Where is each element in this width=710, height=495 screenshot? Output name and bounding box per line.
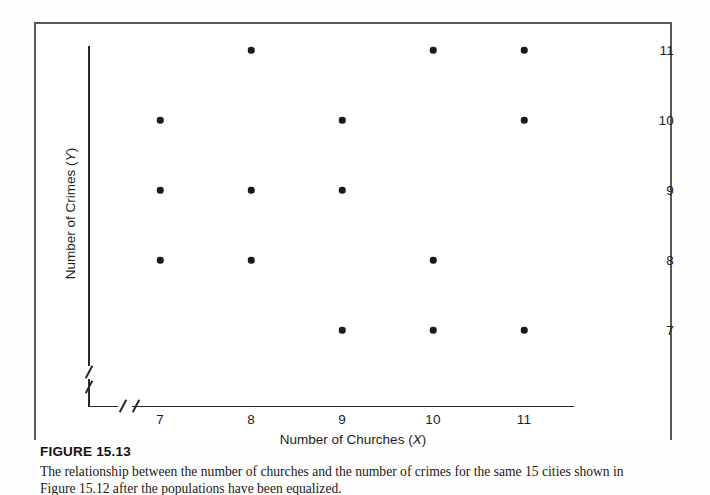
- data-point: [339, 327, 346, 334]
- x-axis-break-mark-left: [119, 399, 127, 412]
- data-point: [430, 257, 437, 264]
- data-point: [521, 327, 528, 334]
- data-point: [339, 117, 346, 124]
- y-tick-label-7: 7: [632, 323, 674, 338]
- y-tick-label-10: 10: [632, 113, 674, 128]
- y-tick-label-8: 8: [632, 253, 674, 268]
- y-tick-label-11: 11: [632, 43, 674, 58]
- x-tick-label-7: 7: [140, 412, 180, 427]
- figure-caption-block: FIGURE 15.13 The relationship between th…: [40, 444, 640, 495]
- data-point: [339, 187, 346, 194]
- data-point: [248, 257, 255, 264]
- x-tick-label-10: 10: [413, 412, 453, 427]
- data-point: [157, 187, 164, 194]
- data-point: [157, 117, 164, 124]
- x-tick-label-9: 9: [322, 412, 362, 427]
- data-point: [248, 187, 255, 194]
- figure-number-label: FIGURE 15.13: [40, 444, 640, 459]
- figure-caption-text: The relationship between the number of c…: [40, 464, 640, 495]
- x-axis-stub-line: [88, 406, 118, 408]
- data-point: [521, 47, 528, 54]
- data-point: [521, 117, 528, 124]
- scatter-plot-area: 1110987 7891011 Number of Churches (X) N…: [36, 24, 674, 442]
- data-point: [430, 47, 437, 54]
- data-point: [157, 257, 164, 264]
- y-axis-break-mark-upper: [85, 365, 93, 378]
- figure-page: 1110987 7891011 Number of Churches (X) N…: [0, 0, 710, 495]
- data-point: [248, 47, 255, 54]
- x-tick-label-8: 8: [231, 412, 271, 427]
- y-axis-title: Number of Crimes (Y): [63, 84, 78, 344]
- y-axis-title-variable: Y: [63, 152, 78, 161]
- data-point: [430, 327, 437, 334]
- y-axis-title-text: Number of Crimes (: [63, 161, 78, 279]
- x-axis-line: [132, 406, 574, 408]
- x-tick-label-11: 11: [504, 412, 544, 427]
- figure-frame-box: 1110987 7891011 Number of Churches (X) N…: [34, 22, 672, 440]
- y-axis-line: [88, 46, 90, 366]
- y-axis-title-close: ): [63, 148, 78, 153]
- y-tick-label-9: 9: [632, 183, 674, 198]
